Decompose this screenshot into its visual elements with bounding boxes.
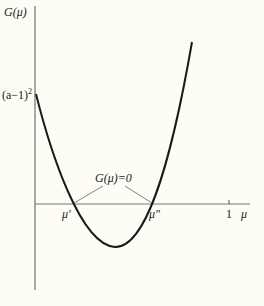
root2-label: μ″: [149, 208, 160, 220]
g-mu-curve: [36, 42, 192, 247]
y-intercept-base: (a−1): [2, 88, 28, 102]
g-mu-diagram: G(μ) (a−1)2 G(μ)=0 μ′ μ″ 1 μ: [0, 0, 264, 306]
diagram-canvas: [0, 0, 264, 306]
tick-one-label: 1: [226, 208, 232, 220]
x-axis-label: μ: [241, 208, 247, 220]
y-intercept-label: (a−1)2: [2, 88, 32, 101]
root1-label: μ′: [62, 208, 71, 220]
annotation-g-equals-zero: G(μ)=0: [95, 172, 132, 184]
y-intercept-exponent: 2: [28, 87, 32, 96]
leader-line-root2: [125, 186, 152, 203]
y-axis-label: G(μ): [4, 6, 27, 18]
leader-line-root1: [74, 186, 103, 203]
